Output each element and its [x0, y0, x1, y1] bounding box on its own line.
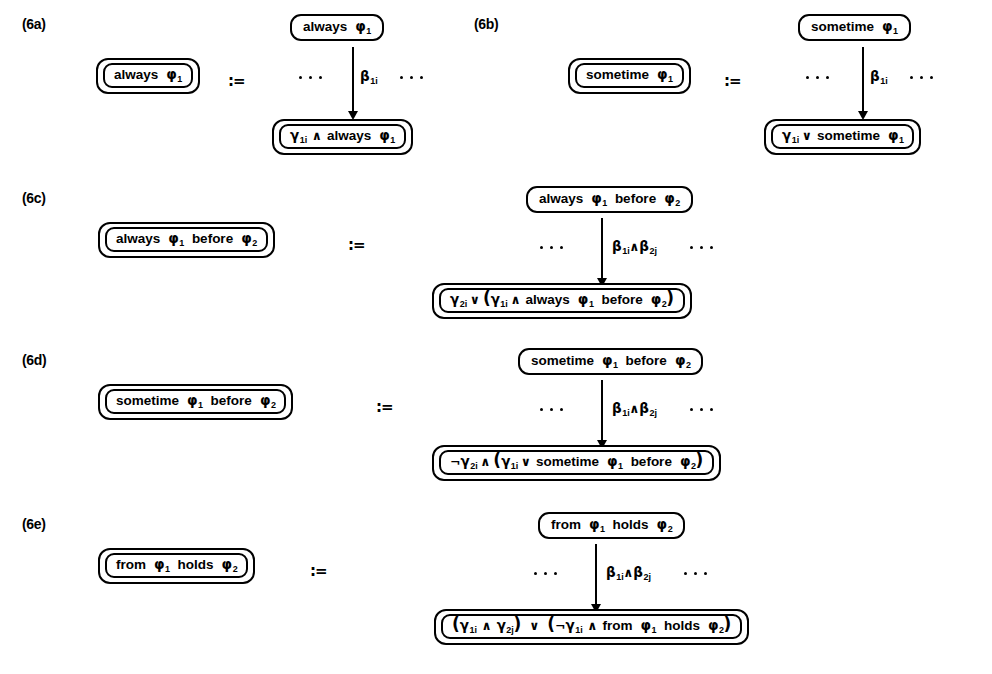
gamma-subscript: 1i [792, 136, 800, 145]
gamma-symbol: γ [566, 619, 575, 633]
phi-symbol: φ [602, 354, 613, 368]
or-operator: ∨ [529, 620, 539, 633]
phi-symbol: φ [187, 394, 198, 408]
right-ellipsis-6e [684, 572, 707, 575]
phi-subscript: 1 [602, 199, 607, 208]
phi-symbol: φ [640, 619, 651, 633]
lhs-box-6c-content: always φ1 before φ2 [105, 227, 268, 252]
not-operator: ¬ [450, 456, 460, 469]
beta-subscript: 1i [880, 76, 888, 86]
lhs-box-6c[interactable]: always φ1 before φ2 [98, 222, 275, 258]
define-symbol-6a: := [228, 72, 245, 90]
bottom-box-6b[interactable]: γ1i ∨ sometime φ1 [764, 119, 921, 155]
keyword-before: before [631, 455, 672, 469]
bottom-box-6d-content: ¬ γ2i ∧ ( γ1i ∨ sometime φ1 before φ2 ) [439, 450, 714, 475]
and-operator: ∧ [482, 620, 492, 633]
phi-subscript: 1 [899, 136, 904, 145]
keyword-before: before [192, 232, 233, 246]
paren-close: ) [513, 619, 521, 631]
bottom-box-6e[interactable]: ( γ1i ∧ γ2j ) ∨ ( ¬ γ1i ∧ from φ1 [434, 609, 749, 645]
gamma-symbol: γ [290, 129, 299, 143]
arrow-label-6c: β1i∧β2j [612, 238, 657, 254]
phi-subscript: 1 [618, 462, 623, 471]
and-operator: ∧ [510, 294, 520, 307]
gamma-symbol: γ [501, 455, 510, 469]
top-box-6d[interactable]: sometime φ1 before φ2 [518, 348, 703, 375]
phi-subscript: 1 [390, 136, 395, 145]
phi-symbol: φ [664, 192, 675, 206]
keyword-before: before [601, 293, 642, 307]
keyword-from: from [602, 619, 632, 633]
top-box-6e[interactable]: from φ1 holds φ2 [538, 512, 685, 539]
keyword-always: always [114, 68, 158, 82]
phi-subscript: 2 [691, 462, 696, 471]
top-box-6c[interactable]: always φ1 before φ2 [526, 186, 693, 213]
panel-label-6d: (6d) [22, 352, 46, 368]
left-ellipsis-6b [806, 76, 829, 79]
phi-symbol: φ [675, 354, 686, 368]
arrow-shaft-6d [601, 380, 603, 446]
phi-subscript: 2 [668, 525, 673, 534]
keyword-always: always [327, 129, 371, 143]
phi-subscript: 2 [233, 565, 238, 574]
phi-subscript: 1 [600, 525, 605, 534]
gamma-subscript: 1i [300, 136, 308, 145]
paren-close: ) [666, 293, 674, 305]
bottom-box-6d[interactable]: ¬ γ2i ∧ ( γ1i ∨ sometime φ1 before φ2 ) [432, 445, 721, 481]
gamma-subscript: 2j [506, 626, 514, 635]
phi-subscript: 2 [686, 361, 691, 370]
gamma-symbol: γ [460, 455, 469, 469]
beta-subscript: 1i [622, 408, 630, 418]
beta-symbol: β [612, 400, 622, 416]
keyword-always: always [303, 20, 347, 34]
panel-label-6a: (6a) [22, 16, 46, 32]
phi-symbol: φ [154, 558, 165, 572]
lhs-box-6a-content: always φ1 [103, 63, 193, 88]
gamma-subscript: 2i [460, 300, 468, 309]
phi-symbol: φ [708, 619, 719, 633]
beta-symbol: β [633, 564, 643, 580]
arrow-shaft-6c [601, 218, 603, 284]
phi-subscript: 1 [177, 75, 182, 84]
gamma-symbol: γ [497, 619, 506, 633]
right-ellipsis-6a [400, 76, 423, 79]
phi-symbol: φ [680, 455, 691, 469]
paren-open: ( [452, 619, 460, 631]
phi-symbol: φ [657, 68, 668, 82]
or-operator: ∨ [521, 456, 531, 469]
keyword-sometime: sometime [817, 129, 880, 143]
define-symbol-6d: := [376, 398, 393, 416]
keyword-sometime: sometime [116, 394, 179, 408]
phi-symbol: φ [241, 232, 252, 246]
lhs-box-6e-content: from φ1 holds φ2 [105, 553, 248, 578]
phi-subscript: 1 [589, 300, 594, 309]
arrow-shaft-6a [352, 47, 354, 117]
top-box-6a[interactable]: always φ1 [290, 14, 384, 41]
left-ellipsis-6e [534, 572, 557, 575]
panel-label-6e: (6e) [22, 516, 46, 532]
not-operator: ¬ [555, 620, 565, 633]
paren-close: ) [695, 455, 703, 467]
keyword-sometime: sometime [536, 455, 599, 469]
bottom-box-6a[interactable]: γ1i ∧ always φ1 [272, 119, 413, 155]
and-operator: ∧ [623, 565, 633, 580]
beta-subscript: 1i [370, 76, 378, 86]
lhs-box-6b[interactable]: sometime φ1 [568, 58, 691, 94]
lhs-box-6d[interactable]: sometime φ1 before φ2 [98, 384, 293, 420]
or-operator: ∨ [470, 294, 480, 307]
arrow-label-6d: β1i∧β2j [612, 400, 657, 416]
beta-subscript: 2j [644, 572, 652, 582]
lhs-box-6a[interactable]: always φ1 [96, 58, 200, 94]
lhs-box-6d-content: sometime φ1 before φ2 [105, 389, 286, 414]
phi-symbol: φ [657, 518, 668, 532]
figure-canvas: (6a) always φ1 := always φ1 β1i γ1i [0, 0, 992, 674]
lhs-box-6e[interactable]: from φ1 holds φ2 [98, 548, 255, 584]
paren-close: ) [724, 619, 732, 631]
arrow-shaft-6b [862, 47, 864, 117]
bottom-box-6c[interactable]: γ2i ∨ ( γ1i ∧ always φ1 before φ2 ) [432, 283, 692, 319]
keyword-holds: holds [178, 558, 214, 572]
beta-symbol: β [639, 238, 649, 254]
top-box-6b[interactable]: sometime φ1 [798, 14, 911, 41]
gamma-subscript: 1i [575, 626, 583, 635]
and-operator: ∧ [312, 130, 322, 143]
